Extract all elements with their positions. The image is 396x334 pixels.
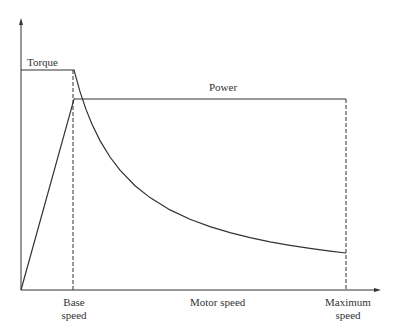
x-axis-title: Motor speed <box>190 296 245 309</box>
x-axis-arrow-icon <box>374 288 381 292</box>
max-speed-label-line2: speed <box>325 309 371 322</box>
max-speed-label: Maximum speed <box>325 296 371 322</box>
torque-power-chart <box>0 0 396 334</box>
torque-curve <box>21 70 346 253</box>
y-axis-arrow-icon <box>19 18 23 25</box>
max-speed-label-line1: Maximum <box>325 296 371 309</box>
base-speed-label-line2: speed <box>58 309 90 322</box>
base-speed-label-line1: Base <box>58 296 90 309</box>
torque-label: Torque <box>27 56 58 69</box>
power-label: Power <box>209 81 237 94</box>
base-speed-label: Base speed <box>58 296 90 322</box>
power-curve <box>21 99 346 290</box>
